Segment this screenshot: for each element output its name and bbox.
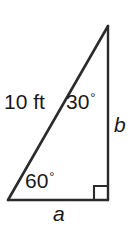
apex-angle-value: 30 [66, 90, 89, 113]
degree-symbol-icon: ° [90, 90, 95, 105]
geometry-figure: 10 ft 30° 60° b a [0, 0, 140, 227]
base-angle-label: 60° [25, 170, 55, 191]
vertical-leg-label: b [114, 114, 126, 135]
horizontal-leg-label: a [53, 203, 65, 224]
hypotenuse-length-label: 10 ft [4, 91, 45, 112]
apex-angle-label: 30° [66, 91, 96, 112]
base-angle-value: 60 [25, 169, 48, 192]
degree-symbol-icon: ° [49, 169, 54, 184]
hypotenuse-line [8, 26, 108, 200]
right-angle-marker-icon [94, 186, 108, 200]
